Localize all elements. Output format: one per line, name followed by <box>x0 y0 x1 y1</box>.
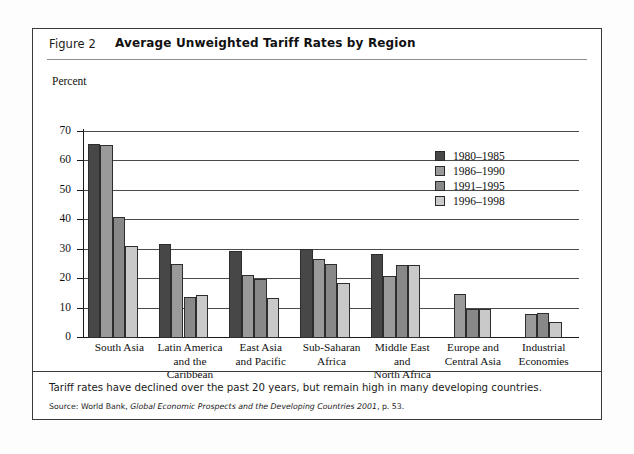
bar-group <box>84 63 155 338</box>
bar <box>454 294 466 338</box>
bar <box>229 251 241 338</box>
y-tick-label-40: 40 <box>43 213 71 225</box>
legend-label: 1986–1990 <box>453 165 505 177</box>
legend-swatch-icon <box>435 151 445 161</box>
bar <box>242 275 254 338</box>
y-tick-label-70: 70 <box>43 125 71 137</box>
figure-number: Figure 2 <box>49 37 96 51</box>
y-tick-60 <box>77 160 83 161</box>
y-axis-label: Percent <box>52 75 86 87</box>
legend-swatch-icon <box>435 166 445 176</box>
title-divider <box>47 59 587 60</box>
source-prefix: Source: World Bank, <box>49 402 130 411</box>
y-tick-label-10: 10 <box>43 302 71 314</box>
bar <box>325 264 337 338</box>
y-tick-label-0: 0 <box>43 331 71 343</box>
y-tick-label-50: 50 <box>43 184 71 196</box>
figure-source: Source: World Bank, Global Economic Pros… <box>49 401 585 412</box>
legend-item: 1996–1998 <box>435 193 505 208</box>
bar <box>196 295 208 338</box>
bar <box>184 297 196 338</box>
bar <box>525 314 537 338</box>
bar <box>171 264 183 338</box>
legend-item: 1991–1995 <box>435 178 505 193</box>
y-tick-50 <box>77 190 83 191</box>
legend-label: 1996–1998 <box>453 195 505 207</box>
figure-header: Figure 2 Average Unweighted Tariff Rates… <box>33 29 601 63</box>
bar <box>371 254 383 338</box>
bar <box>396 265 408 338</box>
bar-group <box>296 63 367 338</box>
bar-group <box>367 63 438 338</box>
bar <box>466 309 478 338</box>
y-tick-label-30: 30 <box>43 243 71 255</box>
legend-swatch-icon <box>435 196 445 206</box>
bar <box>88 144 100 338</box>
figure-title: Average Unweighted Tariff Rates by Regio… <box>115 36 416 50</box>
chart-legend: 1980–19851986–19901991–19951996–1998 <box>431 146 509 210</box>
bar <box>337 283 349 338</box>
figure-caption: Tariff rates have declined over the past… <box>49 381 585 394</box>
bar-group <box>225 63 296 338</box>
legend-item: 1980–1985 <box>435 148 505 163</box>
chart-plot-area: Percent 010203040506070 South AsiaLatin … <box>33 63 601 371</box>
footer-divider <box>33 371 601 372</box>
y-tick-10 <box>77 308 83 309</box>
bar <box>383 276 395 338</box>
bar-group <box>508 63 579 338</box>
y-tick-label-20: 20 <box>43 272 71 284</box>
bar <box>300 249 312 338</box>
bar <box>267 298 279 338</box>
legend-swatch-icon <box>435 181 445 191</box>
bar <box>100 145 112 338</box>
legend-label: 1980–1985 <box>453 150 505 162</box>
figure-container: Figure 2 Average Unweighted Tariff Rates… <box>32 28 602 420</box>
y-tick-0 <box>77 337 83 338</box>
y-tick-20 <box>77 278 83 279</box>
y-tick-40 <box>77 219 83 220</box>
x-axis-label-line: Industrial <box>499 341 588 355</box>
bar <box>113 217 125 338</box>
bar <box>313 259 325 338</box>
source-suffix: , p. 53. <box>377 402 404 411</box>
x-axis-label-line: Economies <box>499 355 588 369</box>
x-axis-label: IndustrialEconomies <box>499 341 588 368</box>
bar-group <box>155 63 226 338</box>
y-tick-label-60: 60 <box>43 154 71 166</box>
bar <box>408 265 420 338</box>
y-tick-70 <box>77 131 83 132</box>
bar <box>549 322 561 338</box>
screenshot-root: Figure 2 Average Unweighted Tariff Rates… <box>0 0 634 454</box>
bar <box>254 279 266 338</box>
legend-label: 1991–1995 <box>453 180 505 192</box>
source-title: Global Economic Prospects and the Develo… <box>130 402 377 411</box>
bar <box>159 244 171 338</box>
y-tick-30 <box>77 249 83 250</box>
legend-item: 1986–1990 <box>435 163 505 178</box>
bar <box>537 313 549 338</box>
bar <box>125 246 137 338</box>
bar <box>479 309 491 338</box>
